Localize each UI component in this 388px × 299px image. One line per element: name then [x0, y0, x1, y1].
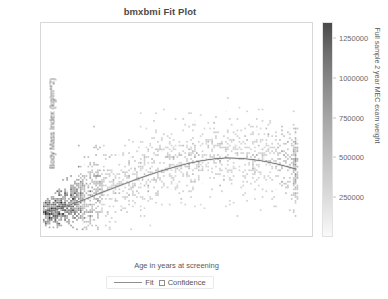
chart-root: bmxbmi Fit Plot Body Mass Index (kg/m**2…: [0, 0, 388, 299]
colorbar-tick-label: 250000: [333, 193, 364, 202]
y-tick-mark: [40, 162, 41, 163]
colorbar-tick-label: 1250000: [333, 33, 368, 42]
x-tick-mark: [297, 236, 298, 237]
colorbar-tick-mark: [333, 117, 336, 118]
y-axis-label: Body Mass Index (kg/m**2): [48, 44, 57, 204]
scatter-density-canvas: [41, 23, 312, 236]
colorbar-gradient: [322, 22, 333, 237]
x-tick-label: 80: [294, 236, 302, 237]
legend-box: Fit Confidence: [106, 276, 213, 289]
x-axis-label: Age in years at screening: [40, 261, 313, 270]
page-title: bmxbmi Fit Plot: [0, 6, 320, 17]
colorbar-tick-mark: [333, 197, 336, 198]
colorbar-tick-mark: [333, 157, 336, 158]
x-tick-mark: [233, 236, 234, 237]
y-tick-mark: [40, 200, 41, 201]
legend-item-confidence: Confidence: [159, 278, 206, 287]
colorbar-tick-label: 500000: [333, 153, 364, 162]
colorbar-title: Full sample 2 year MEC exam weight: [374, 6, 381, 166]
legend-label-confidence: Confidence: [168, 278, 206, 287]
line-swatch-icon: [114, 282, 142, 283]
x-tick-mark: [169, 236, 170, 237]
x-tick-label: 20: [101, 236, 109, 237]
x-tick-label: 60: [230, 236, 238, 237]
legend-item-fit: Fit: [114, 278, 153, 287]
plot-area: Body Mass Index (kg/m**2) 20304050602040…: [40, 22, 313, 237]
colorbar-tick-mark: [333, 37, 336, 38]
colorbar: 25000050000075000010000001250000: [322, 22, 333, 237]
colorbar-tick-mark: [333, 77, 336, 78]
legend: Fit Confidence: [0, 276, 320, 289]
square-swatch-icon: [159, 280, 165, 286]
x-tick-label: 40: [165, 236, 173, 237]
y-tick-mark: [40, 124, 41, 125]
colorbar-tick-label: 750000: [333, 113, 364, 122]
colorbar-tick-label: 1000000: [333, 73, 368, 82]
y-tick-mark: [40, 49, 41, 50]
y-tick-mark: [40, 87, 41, 88]
legend-label-fit: Fit: [145, 278, 153, 287]
x-tick-mark: [105, 236, 106, 237]
